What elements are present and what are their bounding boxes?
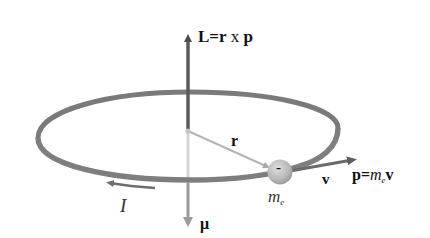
loop-center-point bbox=[186, 129, 191, 134]
electron-charge-label: - bbox=[276, 160, 281, 175]
momentum-lhs: p= bbox=[352, 166, 370, 183]
radius-vector bbox=[188, 131, 268, 167]
angular-momentum-p: p bbox=[244, 27, 253, 46]
current-label: I bbox=[120, 196, 126, 215]
electron-mass-label: me bbox=[268, 188, 284, 207]
momentum-mass: m bbox=[370, 166, 382, 183]
mass-symbol: m bbox=[268, 187, 280, 206]
radius-label: r bbox=[231, 133, 238, 149]
angular-momentum-label: L=r x p bbox=[198, 28, 253, 45]
mass-subscript: e bbox=[280, 197, 284, 207]
angular-momentum-lhs: L=r bbox=[198, 27, 227, 46]
momentum-label: p=mev bbox=[352, 167, 394, 185]
current-direction-arrow bbox=[110, 183, 155, 188]
cross-operator: x bbox=[227, 27, 244, 46]
momentum-velocity: v bbox=[386, 166, 394, 183]
magnetic-moment-label: μ bbox=[200, 216, 209, 232]
velocity-label: v bbox=[322, 172, 330, 187]
loop-diagram: L=r x p r - me v p=mev I μ bbox=[0, 0, 430, 238]
